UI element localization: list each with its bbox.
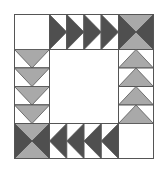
corner-bottom-right bbox=[119, 124, 154, 159]
corner-top-left bbox=[15, 15, 50, 50]
quilt-diagram bbox=[14, 14, 154, 159]
quilt-center bbox=[50, 50, 119, 124]
